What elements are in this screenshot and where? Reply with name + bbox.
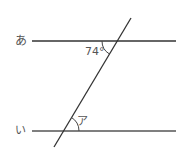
line-label-i: い <box>15 125 27 136</box>
diagram-drawing <box>0 0 187 165</box>
angle-label-74: 74° <box>85 46 105 57</box>
transversal-line <box>54 18 131 147</box>
parallel-lines-diagram: あ い 74° ア <box>0 0 187 165</box>
line-label-a: あ <box>15 35 27 47</box>
angle-label-a: ア <box>77 116 88 127</box>
